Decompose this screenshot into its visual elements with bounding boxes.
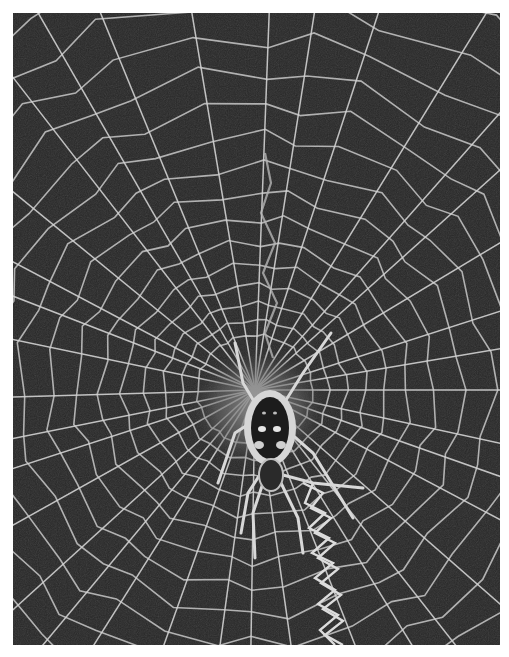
spider-abdomen <box>251 397 289 459</box>
spider-cephalothorax <box>259 459 283 491</box>
photo-caption <box>0 647 509 657</box>
spider-web-photo <box>13 13 500 645</box>
web-illustration <box>13 13 500 645</box>
